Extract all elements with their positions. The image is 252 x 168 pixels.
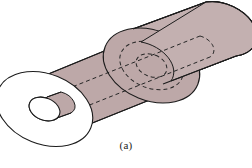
figure-container: (a) — [0, 0, 252, 168]
figure-caption: (a) — [0, 138, 252, 152]
figure-caption-text: (a) — [120, 139, 133, 151]
